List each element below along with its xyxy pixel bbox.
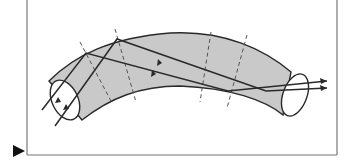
fiber-diagram xyxy=(0,0,356,163)
triangle-pointer-icon xyxy=(13,145,25,157)
curved-optical-fiber xyxy=(49,33,291,120)
